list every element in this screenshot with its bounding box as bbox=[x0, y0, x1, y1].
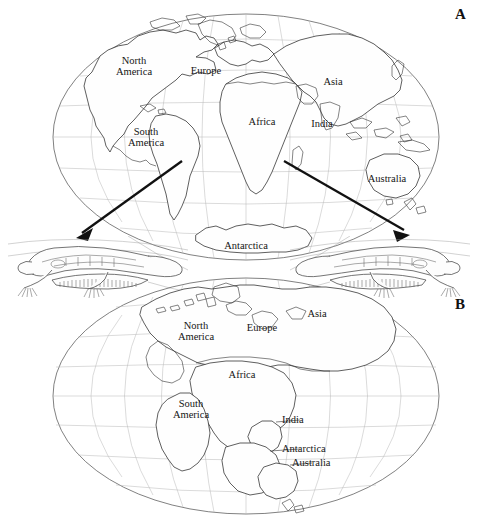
map-label-australia-a: Australia bbox=[360, 173, 414, 184]
coastline-new-zealand-b bbox=[282, 499, 304, 513]
map-label-antarctica-b: Antarctica bbox=[282, 443, 342, 454]
map-label-north-america-b: NorthAmerica bbox=[170, 320, 222, 342]
coastline-se-asia-islands-a bbox=[346, 116, 412, 142]
coastline-australia-b bbox=[258, 463, 298, 499]
coastline-caribbean-islands-a bbox=[140, 104, 166, 114]
map-label-australia-b: Australia bbox=[292, 457, 348, 468]
map-label-europe-a: Europe bbox=[182, 65, 230, 76]
map-label-asia-a: Asia bbox=[316, 76, 350, 87]
map-label-north-america-a: NorthAmerica bbox=[108, 55, 160, 77]
coastline-tasmania-a bbox=[386, 199, 393, 205]
map-label-south-america-a: SouthAmerica bbox=[120, 126, 172, 148]
panel-b-map bbox=[0, 271, 478, 521]
coastline-new-guinea-a bbox=[398, 140, 430, 152]
map-label-india-a: India bbox=[304, 118, 340, 129]
coastline-africa-a bbox=[220, 72, 302, 194]
map-label-india-b: India bbox=[282, 414, 318, 425]
map-label-africa-b: Africa bbox=[220, 369, 264, 380]
map-label-antarctica-a: Antarctica bbox=[216, 240, 276, 251]
map-label-europe-b: Europe bbox=[238, 322, 286, 333]
map-label-africa-a: Africa bbox=[240, 116, 284, 127]
panel-a-map bbox=[0, 0, 478, 270]
coastline-europe-a bbox=[215, 40, 274, 66]
coastline-central-america-a bbox=[113, 146, 156, 166]
coastline-scandinavia-a bbox=[240, 24, 266, 38]
coastline-new-zealand-a bbox=[404, 198, 426, 214]
map-label-asia-b: Asia bbox=[300, 308, 334, 319]
continental-drift-figure: Continental Drift · Mesosaurus bbox=[0, 0, 478, 521]
panel-letter-a: A bbox=[455, 6, 466, 23]
panel-letter-b: B bbox=[455, 296, 466, 313]
map-label-south-america-b: SouthAmerica bbox=[165, 398, 217, 420]
